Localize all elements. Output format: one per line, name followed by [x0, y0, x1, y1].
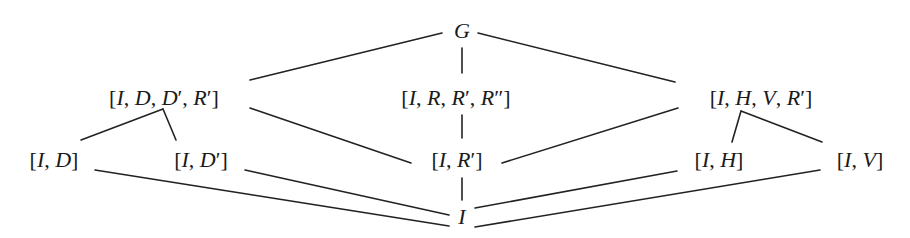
node-G: G [454, 18, 470, 44]
node-I-R-Rprime-Rdoubleprime: [I, R, R′, R″] [401, 85, 510, 111]
edge-IHVRp-IRp [502, 108, 678, 163]
edge-G-IHVRp [478, 33, 675, 82]
node-I-D: [I, D] [30, 147, 79, 173]
node-I-H: [I, H] [695, 147, 744, 173]
edge-ID-I [95, 170, 449, 226]
node-I-Rprime: [I, R′] [431, 147, 482, 173]
edge-IDDpRp-IRp [250, 108, 411, 163]
edge-IDDpRp-ID [81, 109, 163, 140]
node-I-D-Dprime-Rprime: [I, D, D′, R′] [109, 85, 219, 111]
node-I-V: [I, V] [837, 147, 883, 173]
edge-IDDpRp-IDp [163, 109, 176, 140]
node-label: I [458, 204, 465, 229]
node-I: I [458, 204, 465, 230]
edge-IH-I [475, 171, 677, 208]
edge-IDp-I [245, 170, 449, 215]
lattice-diagram: G [I, D, D′, R′] [I, R, R′, R″] [I, H, V… [0, 0, 910, 238]
node-I-Dprime: [I, D′] [174, 147, 228, 173]
node-I-H-V-Rprime: [I, H, V, R′] [710, 85, 813, 111]
node-label: G [454, 18, 470, 43]
edge-G-IDDpRp [250, 33, 442, 80]
edge-IHVRp-IV [741, 111, 822, 142]
edge-IHVRp-IH [732, 111, 741, 142]
